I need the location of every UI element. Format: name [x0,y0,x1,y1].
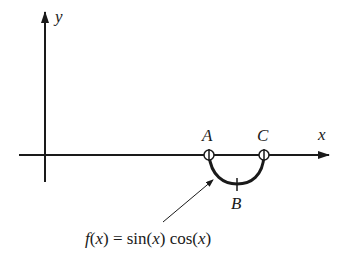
point-c: C [257,126,269,161]
x-axis-label: x [317,125,326,144]
annotation-arrow [163,180,213,222]
function-formula: f(x) = sin(x) cos(x) [85,229,211,248]
y-axis-label: y [53,7,63,26]
function-diagram: y x A C B f(x) = sin(x) cos(x) [0,0,345,259]
point-b-label: B [231,194,242,213]
point-c-label: C [257,126,269,145]
point-a-label: A [201,126,213,145]
formula-paren: ) [206,229,212,248]
formula-cos: ) cos( [160,229,199,248]
formula-sin: = sin( [109,229,153,248]
